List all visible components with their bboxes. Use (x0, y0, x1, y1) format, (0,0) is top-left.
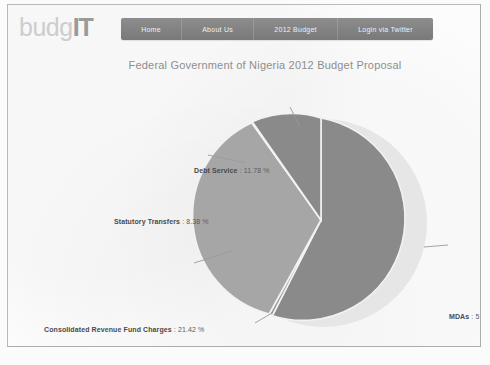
pie-label-separator: : (182, 218, 184, 225)
pie-label-mdas-name: MDAs (449, 313, 469, 320)
leader-line-mdas (424, 245, 448, 247)
pie-label-unit: % (263, 167, 269, 174)
nav-item-2012-budget-label: 2012 Budget (274, 26, 316, 33)
pie-label-debt-service-name: Debt Service (194, 167, 238, 174)
pie-label-debt-service: Debt Service : 11.78 % (194, 167, 270, 174)
pie-label-consolidated-revenue-fund-charges: Consolidated Revenue Fund Charges : 21.4… (44, 326, 204, 333)
pie-label-statutory-transfers-value: 8.38 (186, 218, 200, 225)
pie-label-consolidated-value: 21.42 (178, 326, 196, 333)
main-navigation: Home About Us 2012 Budget Login via Twit… (121, 18, 433, 40)
nav-item-home-label: Home (141, 26, 161, 33)
pie-label-unit: % (198, 326, 204, 333)
logo-text-light: budg (19, 13, 73, 41)
nav-item-2012-budget[interactable]: 2012 Budget (254, 18, 338, 40)
pie-label-mdas-value: 57 (475, 313, 481, 320)
nav-item-about-us-label: About Us (202, 26, 233, 33)
site-header: budgIT Home About Us 2012 Budget Login v… (8, 5, 480, 53)
pie-chart-svg (8, 75, 481, 345)
pie-label-statutory-transfers-name: Statutory Transfers (114, 218, 180, 225)
pie-label-unit: % (202, 218, 208, 225)
pie-label-separator: : (471, 313, 473, 320)
nav-item-login-via-twitter-label: Login via Twitter (358, 26, 413, 33)
pie-label-separator: : (240, 167, 242, 174)
nav-item-about-us[interactable]: About Us (182, 18, 254, 40)
nav-item-login-via-twitter[interactable]: Login via Twitter (338, 18, 433, 40)
pie-label-consolidated-name: Consolidated Revenue Fund Charges (44, 326, 172, 333)
pie-chart: Debt Service : 11.78 % Statutory Transfe… (8, 75, 481, 345)
scanned-page-frame: budgIT Home About Us 2012 Budget Login v… (7, 4, 481, 347)
logo-text-dark: IT (73, 13, 93, 41)
nav-item-home[interactable]: Home (121, 18, 182, 40)
pie-label-statutory-transfers: Statutory Transfers : 8.38 % (114, 218, 209, 225)
leader-line-federal-executive-bodies (255, 313, 272, 323)
budgit-logo[interactable]: budgIT (19, 15, 93, 40)
pie-label-debt-service-value: 11.78 (244, 167, 262, 174)
pie-label-mdas: MDAs : 57 (449, 313, 481, 320)
pie-label-separator: : (174, 326, 176, 333)
chart-title: Federal Government of Nigeria 2012 Budge… (8, 59, 480, 71)
